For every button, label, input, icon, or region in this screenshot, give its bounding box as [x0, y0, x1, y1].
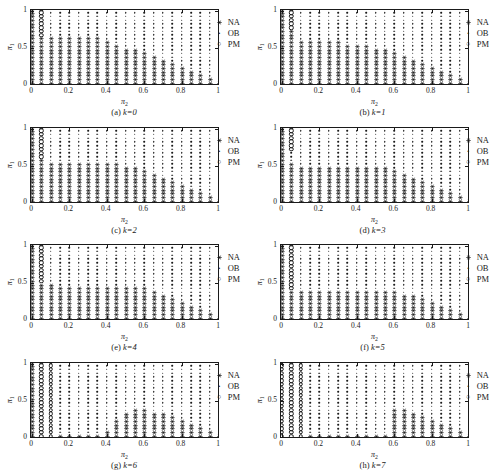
- marker-ob: [450, 383, 452, 385]
- marker-ob: [403, 376, 405, 378]
- marker-ob: [200, 306, 202, 308]
- marker-ob: [309, 254, 311, 256]
- x-tick-top: [432, 363, 433, 366]
- x-tick: [107, 434, 108, 437]
- marker-ob: [337, 380, 339, 382]
- marker-ob: [190, 269, 192, 271]
- plot-area-e: [30, 244, 219, 320]
- marker-ob: [125, 280, 127, 282]
- panel-caption-g: (g) k=6: [0, 460, 248, 470]
- marker-ob: [440, 295, 442, 297]
- marker-ob: [115, 254, 117, 256]
- marker-ob: [384, 16, 386, 18]
- marker-ob: [125, 262, 127, 264]
- marker-ob: [421, 383, 423, 385]
- marker-ob: [69, 254, 71, 256]
- marker-ob: [347, 156, 349, 158]
- marker-ob: [393, 284, 395, 286]
- marker-ob: [431, 277, 433, 279]
- marker-ob: [375, 391, 377, 393]
- marker-ob: [87, 156, 89, 158]
- marker-ob: [365, 398, 367, 400]
- marker-ob: [375, 395, 377, 397]
- marker-ob: [190, 60, 192, 62]
- marker-ob: [328, 19, 330, 21]
- marker-ob: [403, 269, 405, 271]
- marker-ob: [78, 284, 80, 286]
- marker-ob: [134, 254, 136, 256]
- marker-ob: [393, 19, 395, 21]
- x-tick: [394, 434, 395, 437]
- marker-ob: [162, 16, 164, 18]
- marker-ob: [162, 265, 164, 267]
- marker-ob: [347, 432, 349, 434]
- marker-ob: [218, 60, 219, 62]
- marker-ob: [375, 424, 377, 426]
- marker-ob: [115, 376, 117, 378]
- marker-ob: [450, 38, 452, 40]
- marker-ob: [97, 362, 99, 363]
- marker-ob: [337, 27, 339, 29]
- marker-ob: [421, 398, 423, 400]
- marker-ob: [200, 406, 202, 408]
- legend-label: NA: [228, 252, 240, 263]
- x-tick: [319, 81, 320, 84]
- marker-ob: [190, 302, 192, 304]
- marker-ob: [171, 34, 173, 36]
- x-axis-tick-label: 0.4: [351, 440, 360, 448]
- marker-ob: [450, 244, 452, 245]
- marker-ob: [328, 424, 330, 426]
- marker-ob: [450, 291, 452, 293]
- marker-ob: [421, 27, 423, 29]
- marker-ob: [125, 148, 127, 150]
- marker-ob: [421, 16, 423, 18]
- marker-ob: [153, 365, 155, 367]
- marker-na: [458, 77, 462, 81]
- marker-ob: [106, 262, 108, 264]
- marker-ob: [209, 167, 211, 169]
- marker-ob: [328, 141, 330, 143]
- marker-ob: [319, 19, 321, 21]
- marker-ob: [115, 372, 117, 374]
- marker-ob: [209, 30, 211, 32]
- marker-ob: [356, 42, 358, 44]
- marker-na: [327, 290, 331, 294]
- marker-ob: [59, 127, 61, 128]
- marker-ob: [319, 34, 321, 36]
- marker-ob: [450, 34, 452, 36]
- legend-label: OB: [477, 146, 489, 157]
- x-axis-tick-label: 0.8: [176, 322, 185, 330]
- x-axis-tick-label: 0.6: [139, 87, 148, 95]
- marker-ob: [181, 291, 183, 293]
- marker-ob: [319, 137, 321, 139]
- marker-ob: [190, 383, 192, 385]
- marker-na: [170, 297, 174, 301]
- marker-ob: [115, 413, 117, 415]
- marker-ob: [171, 288, 173, 290]
- marker-ob: [328, 254, 330, 256]
- marker-ob: [384, 145, 386, 147]
- marker-ob: [440, 130, 442, 132]
- marker-na: [308, 434, 312, 438]
- legend-label: PM: [228, 39, 240, 50]
- marker-na: [208, 77, 212, 81]
- marker-ob: [78, 273, 80, 275]
- marker-ob: [309, 413, 311, 415]
- marker-ob: [97, 34, 99, 36]
- marker-ob: [181, 262, 183, 264]
- marker-ob: [209, 171, 211, 173]
- marker-ob: [97, 284, 99, 286]
- marker-ob: [134, 27, 136, 29]
- marker-ob: [143, 383, 145, 385]
- marker-ob: [97, 428, 99, 430]
- marker-ob: [87, 417, 89, 419]
- legend-label: NA: [228, 17, 240, 28]
- marker-ob: [337, 402, 339, 404]
- x-tick-top: [107, 363, 108, 366]
- marker-ob: [78, 417, 80, 419]
- marker-ob: [431, 167, 433, 169]
- marker-ob: [319, 269, 321, 271]
- marker-ob: [384, 365, 386, 367]
- marker-ob: [143, 141, 145, 143]
- marker-ob: [375, 258, 377, 260]
